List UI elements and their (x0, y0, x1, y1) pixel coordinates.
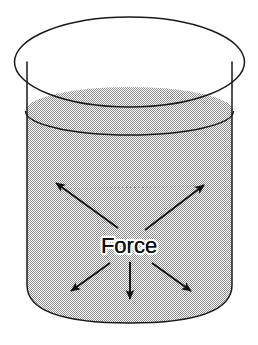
figure-canvas: Force Force (0, 0, 258, 345)
force-diagram-figure: Force Force (0, 0, 258, 345)
force-label: Force (101, 233, 157, 258)
